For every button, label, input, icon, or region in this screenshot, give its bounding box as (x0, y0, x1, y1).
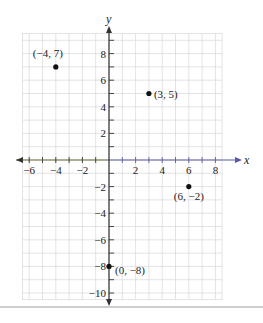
y-tick-label: −6 (94, 234, 106, 246)
coordinate-plane: −6−4−224688642−2−4−6−8−10 (−4, 7)(3, 5)(… (0, 0, 263, 323)
y-axis-label: y (105, 12, 112, 26)
point-label: (0, −8) (115, 264, 145, 277)
data-point (146, 91, 151, 96)
x-tick-label: 4 (159, 164, 165, 176)
y-tick-label: −2 (94, 181, 106, 193)
x-tick-label: −2 (77, 164, 89, 176)
point-label: (6, −2) (174, 190, 204, 203)
data-point (186, 184, 191, 189)
bottom-divider (0, 306, 263, 308)
x-axis-right-arrow-icon (235, 157, 242, 163)
point-label: (−4, 7) (33, 47, 63, 60)
x-tick-label: 8 (213, 164, 219, 176)
data-points: (−4, 7)(3, 5)(6, −2)(0, −8) (33, 47, 204, 278)
x-tick-label: 6 (186, 164, 192, 176)
y-tick-label: −4 (94, 207, 106, 219)
y-axis-up-arrow-icon (106, 26, 112, 33)
x-tick-label: −4 (50, 164, 62, 176)
point-label: (3, 5) (154, 88, 178, 101)
y-tick-label: 6 (101, 74, 107, 86)
x-axis-left-arrow-icon (16, 157, 23, 163)
data-point (106, 264, 111, 269)
x-axis-label: x (243, 153, 250, 167)
y-tick-label: 8 (101, 48, 107, 60)
y-tick-label: −8 (94, 260, 106, 272)
data-point (53, 64, 58, 69)
x-tick-label: −6 (23, 164, 35, 176)
y-tick-label: 4 (101, 101, 107, 113)
x-tick-label: 2 (133, 164, 139, 176)
y-tick-label: −10 (89, 287, 107, 299)
y-tick-label: 2 (101, 127, 107, 139)
y-axis-down-arrow-icon (106, 299, 112, 306)
